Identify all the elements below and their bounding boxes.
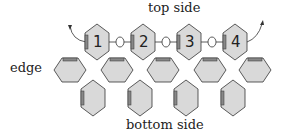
edge-bead [147, 58, 179, 82]
thread-in-arrow [70, 26, 86, 42]
bottom-bead [128, 80, 152, 116]
bottom-bead [174, 80, 198, 116]
seed-bead [116, 37, 124, 47]
bottom-bead [221, 80, 245, 116]
bead-number-4: 4 [231, 33, 241, 51]
bottom-bead [81, 80, 105, 116]
edge-bead [239, 58, 271, 82]
bead-diagram [0, 0, 282, 135]
edge-bead [54, 58, 86, 82]
bead-number-1: 1 [93, 33, 103, 51]
edge-bead [101, 58, 133, 82]
edge-bead [194, 58, 226, 82]
seed-bead [208, 37, 216, 47]
thread-out-arrow [247, 24, 262, 42]
bead-number-2: 2 [139, 33, 149, 51]
seed-bead [162, 37, 170, 47]
bead-number-3: 3 [185, 33, 195, 51]
